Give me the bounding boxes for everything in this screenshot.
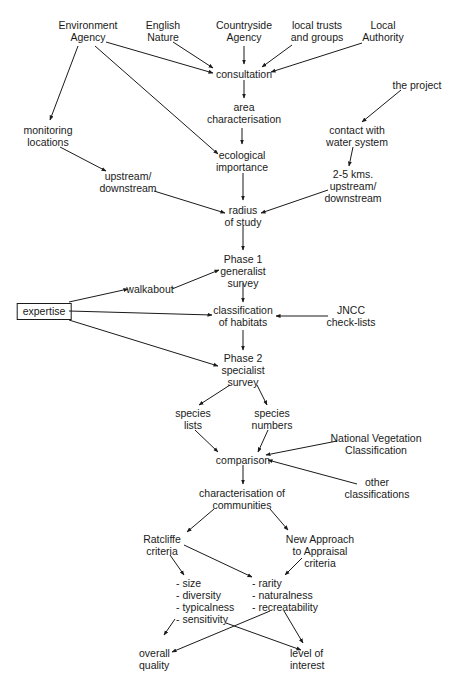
arrow-ea-ecological bbox=[95, 46, 218, 154]
arrow-expertise-classification bbox=[69, 311, 212, 315]
node-english-nature: English Nature bbox=[146, 19, 180, 43]
arrow-la-consultation bbox=[271, 43, 362, 72]
arrow-rlist-quality bbox=[164, 619, 175, 635]
arrow-kms-radius bbox=[261, 190, 328, 213]
node-nvc: National Vegetation Classification bbox=[330, 432, 421, 456]
arrow-walkabout-phase1 bbox=[172, 270, 219, 289]
node-classification-habitats: classification of habitats bbox=[213, 304, 273, 328]
node-overall-quality: overall quality bbox=[139, 647, 170, 671]
node-ecological-importance: ecological importance bbox=[216, 149, 268, 173]
node-monitoring-locations: monitoring locations bbox=[23, 124, 72, 148]
node-comparison: comparison bbox=[216, 454, 270, 466]
node-characterisation-communities: characterisation of communities bbox=[199, 487, 285, 511]
arrow-upstream-radius bbox=[154, 191, 225, 213]
node-ratcliffe-list: - size - diversity - typicalness - sensi… bbox=[176, 577, 234, 625]
node-kms-upstream: 2-5 kms. upstream/ downstream bbox=[324, 168, 381, 204]
node-contact-water: contact with water system bbox=[326, 124, 388, 148]
node-nata-list: - rarity - naturalness - recreatability bbox=[252, 577, 318, 613]
node-level-of-interest: level of interest bbox=[290, 647, 324, 671]
arrow-ratcliffe-ratcliffe-list bbox=[170, 555, 184, 575]
arrow-rlist-interest bbox=[226, 623, 301, 650]
arrow-nvc-comparison bbox=[266, 441, 337, 455]
arrow-nlist-interest bbox=[284, 611, 303, 643]
arrow-expertise-phase2 bbox=[69, 320, 218, 366]
node-other-classifications: other classifications bbox=[345, 476, 410, 500]
node-ratcliffe: Ratcliffe criteria bbox=[143, 533, 181, 557]
node-environment-agency: Environment Agency bbox=[59, 19, 118, 43]
arrow-ea-monitoring bbox=[50, 46, 78, 120]
arrow-numbers-comparison bbox=[258, 430, 268, 452]
node-local-authority: Local Authority bbox=[362, 19, 403, 43]
node-countryside-agency: Countryside Agency bbox=[216, 19, 272, 43]
node-species-numbers: species numbers bbox=[252, 407, 293, 431]
arrow-contact-kms bbox=[349, 147, 353, 166]
node-expertise: expertise bbox=[17, 303, 72, 320]
node-upstream-downstream: upstream/ downstream bbox=[99, 170, 156, 194]
node-phase1: Phase 1 generalist survey bbox=[220, 253, 266, 289]
node-consultation: consultation bbox=[216, 68, 272, 80]
arrow-lt-consultation bbox=[262, 45, 292, 67]
node-new-approach: New Approach to Appraisal criteria bbox=[286, 533, 354, 569]
arrow-project-contact bbox=[362, 90, 401, 122]
node-area-characterisation: area characterisation bbox=[207, 101, 281, 125]
arrow-lists-comparison bbox=[195, 430, 218, 452]
arrow-ratcliffe-nata-list bbox=[184, 545, 252, 577]
node-walkabout: walkabout bbox=[126, 283, 173, 295]
arrow-phase2-numbers bbox=[257, 385, 267, 405]
arrow-characterisation-ratcliffe bbox=[187, 509, 214, 532]
node-radius-of-study: radius of study bbox=[225, 204, 262, 228]
node-local-trusts: local trusts and groups bbox=[291, 19, 344, 43]
arrow-expertise-walkabout bbox=[69, 289, 128, 302]
node-phase2: Phase 2 specialist survey bbox=[221, 352, 264, 388]
flowchart-canvas: Environment Agency English Nature Countr… bbox=[0, 0, 468, 686]
node-species-lists: species lists bbox=[175, 407, 211, 431]
node-jncc: JNCC check-lists bbox=[326, 304, 375, 328]
arrow-monitoring-upstream bbox=[60, 147, 106, 171]
arrow-characterisation-nata bbox=[270, 509, 288, 530]
node-the-project: the project bbox=[392, 79, 441, 91]
arrow-phase2-lists bbox=[199, 385, 230, 405]
arrow-en-consultation bbox=[173, 42, 213, 68]
